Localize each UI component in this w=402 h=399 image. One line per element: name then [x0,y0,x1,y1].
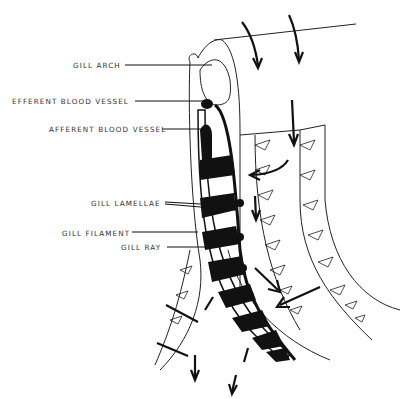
label-gill-lamellae: GILL LAMELLAE [91,199,161,208]
label-gill-ray: GILL RAY [121,243,161,252]
label-gill-filament: GILL FILAMENT [62,229,130,238]
arch-top-edge [214,24,356,40]
gill-diagram [0,0,402,399]
gill-filament-dark [198,99,295,362]
leader-lines [125,65,236,247]
gill-arch-cavity [200,60,230,105]
label-gill-arch: GILL ARCH [73,61,121,70]
label-afferent-blood-vessel: AFFERENT BLOOD VESSEL [49,125,166,134]
label-efferent-blood-vessel: EFFERENT BLOOD VESSEL [12,97,129,106]
afferent-vessel [200,125,212,160]
